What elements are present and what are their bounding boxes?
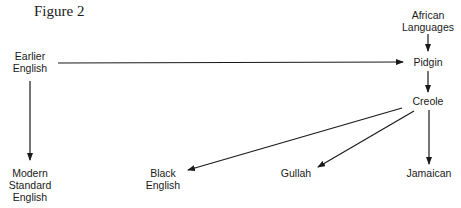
node-label: Modern xyxy=(9,167,52,179)
node-label: Languages xyxy=(402,21,454,33)
node-label: English xyxy=(9,191,52,203)
node-creole: Creole xyxy=(413,95,444,107)
diagram-edges xyxy=(0,0,461,208)
node-label: Standard xyxy=(9,179,52,191)
node-earlier-english: Earlier English xyxy=(13,50,47,74)
node-label: English xyxy=(13,62,47,74)
edge-earlier-to-pidgin xyxy=(58,62,403,63)
node-african-languages: African Languages xyxy=(402,9,454,33)
node-gullah: Gullah xyxy=(281,167,311,179)
node-label: English xyxy=(146,179,180,191)
edge-creole-to-gullah xyxy=(318,111,414,167)
node-label: African xyxy=(402,9,454,21)
node-pidgin: Pidgin xyxy=(413,56,442,68)
node-jamaican: Jamaican xyxy=(407,167,452,179)
node-label: Black xyxy=(146,167,180,179)
node-modern-standard-english: Modern Standard English xyxy=(9,167,52,203)
edge-creole-to-black xyxy=(188,108,402,170)
node-label: Earlier xyxy=(13,50,47,62)
node-black-english: Black English xyxy=(146,167,180,191)
